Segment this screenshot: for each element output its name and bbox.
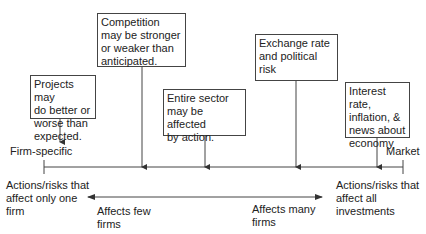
sector-box: Entire sector may be affected by action. bbox=[163, 89, 246, 136]
one-firm-description: Actions/risks that affect only one firm bbox=[6, 179, 89, 218]
all-investments-description: Actions/risks that affect all investment… bbox=[336, 179, 419, 218]
projects-box: Projects may do better or worse than exp… bbox=[30, 75, 96, 119]
interest-box: Interest rate, inflation, & news about e… bbox=[345, 82, 410, 138]
affects-few-label: Affects few firms bbox=[97, 205, 151, 231]
firm-specific-label: Firm-specific bbox=[10, 145, 72, 158]
affects-many-label: Affects many firms bbox=[252, 203, 315, 229]
market-label: Market bbox=[386, 145, 420, 158]
competition-box: Competition may be stronger or weaker th… bbox=[97, 13, 186, 67]
exchange-box: Exchange rate and political risk bbox=[255, 34, 338, 81]
